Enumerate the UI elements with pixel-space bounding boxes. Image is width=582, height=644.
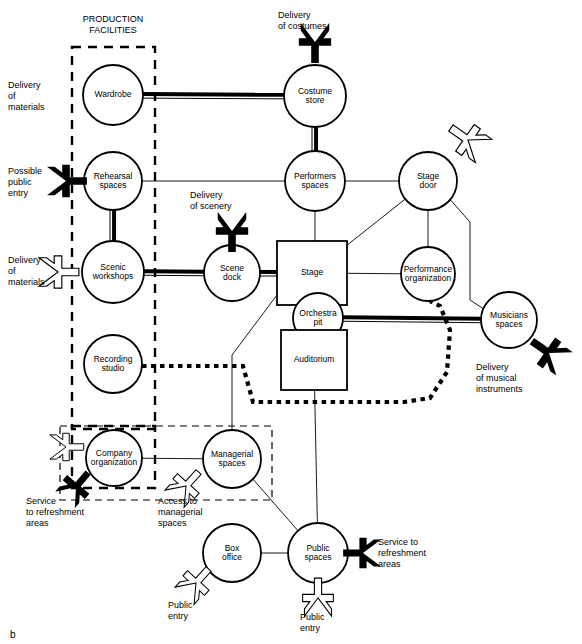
node-rehearsal[interactable]: Rehearsalspaces bbox=[84, 152, 142, 210]
label-service-to-refreshment-left: areas bbox=[26, 518, 49, 528]
label-delivery-of-scenery: of scenery bbox=[190, 201, 232, 211]
label-delivery-of-materials-bottom: Delivery bbox=[8, 255, 41, 265]
node-label-box_office: Box bbox=[225, 543, 240, 553]
label-service-to-refreshment-right: refreshment bbox=[378, 548, 427, 558]
label-delivery-of-materials-bottom: of bbox=[8, 266, 16, 276]
node-label-scenic: workshops bbox=[92, 271, 134, 281]
arrow-company-white bbox=[50, 433, 84, 460]
node-label-costume_store: store bbox=[306, 95, 325, 105]
arrow-possible-public-entry bbox=[47, 165, 87, 197]
label-access-to-managerial-spaces: spaces bbox=[158, 518, 187, 528]
link-managerial-to-public_spaces bbox=[252, 478, 300, 533]
label-public-entry-public-spaces: entry bbox=[300, 623, 321, 633]
node-label-rehearsal: spaces bbox=[100, 180, 127, 190]
node-public_spaces[interactable]: Publicspaces bbox=[288, 523, 348, 583]
label-delivery-of-materials-top: Delivery bbox=[8, 80, 41, 90]
label-possible-public-entry: public bbox=[8, 177, 32, 187]
node-label-scene_dock: dock bbox=[223, 272, 242, 282]
node-stage_door[interactable]: Stagedoor bbox=[399, 152, 457, 210]
node-label-company_org: Company bbox=[96, 448, 133, 458]
arrow-public-entry-public bbox=[303, 578, 334, 616]
arrow-delivery-of-scenery bbox=[216, 212, 248, 252]
link-auditorium-to-public_spaces bbox=[315, 390, 318, 523]
link-wardrobe-to-costume_store-thin-rail bbox=[143, 98, 284, 99]
link-stage_door-to-musicians bbox=[447, 196, 487, 311]
link-scenic-to-scene_dock-thick-rail bbox=[144, 271, 204, 272]
label-public-entry-public-spaces: Public bbox=[300, 612, 325, 622]
theatre-relationship-diagram: PRODUCTIONFACILITIES WardrobeCostumestor… bbox=[0, 0, 582, 644]
label-public-entry-box-office: Public bbox=[168, 600, 193, 610]
label-delivery-of-musical-instruments: Delivery bbox=[476, 362, 509, 372]
node-label-recording: Recording bbox=[94, 354, 133, 364]
diagram-canvas: PRODUCTIONFACILITIES WardrobeCostumestor… bbox=[0, 0, 582, 644]
node-box_office[interactable]: Boxoffice bbox=[203, 524, 261, 582]
label-delivery-of-scenery: Delivery bbox=[190, 190, 223, 200]
group-label-production-facilities: FACILITIES bbox=[89, 25, 137, 35]
node-label-auditorium: Auditorium bbox=[294, 354, 335, 364]
node-scene_dock[interactable]: Scenedock bbox=[204, 245, 260, 301]
node-label-scenic: Scenic bbox=[100, 262, 126, 272]
node-label-box_office: office bbox=[222, 552, 242, 562]
label-delivery-of-costumes: of costumes bbox=[278, 21, 327, 31]
node-performers[interactable]: Performersspaces bbox=[285, 151, 345, 211]
label-possible-public-entry: entry bbox=[8, 188, 29, 198]
node-label-stage_door: door bbox=[419, 180, 436, 190]
label-delivery-of-musical-instruments: instruments bbox=[476, 384, 523, 394]
label-access-to-managerial-spaces: Access to bbox=[158, 496, 197, 506]
link-scenic-to-scene_dock-thin-rail bbox=[144, 275, 204, 276]
node-wardrobe[interactable]: Wardrobe bbox=[83, 65, 143, 125]
label-service-to-refreshment-right: Service to bbox=[378, 537, 418, 547]
node-costume_store[interactable]: Costumestore bbox=[284, 65, 346, 127]
node-label-public_spaces: spaces bbox=[305, 552, 332, 562]
label-service-to-refreshment-left: Service bbox=[26, 496, 56, 506]
label-delivery-of-materials-top: materials bbox=[8, 102, 45, 112]
node-label-musicians: spaces bbox=[496, 319, 523, 329]
node-company_org[interactable]: Companyorganization bbox=[86, 430, 142, 486]
link-stage-to-managerial bbox=[232, 295, 277, 430]
node-auditorium[interactable]: Auditorium bbox=[281, 330, 347, 390]
label-service-to-refreshment-right: areas bbox=[378, 559, 401, 569]
arrow-stage-door-entry bbox=[442, 115, 493, 164]
node-label-managerial: Managerial bbox=[211, 449, 253, 459]
node-label-orchestra_pit: Orchestra bbox=[299, 308, 337, 318]
node-label-company_org: organization bbox=[91, 457, 138, 467]
label-delivery-of-materials-top: of bbox=[8, 91, 16, 101]
label-access-to-managerial-spaces: managerial bbox=[158, 507, 203, 517]
node-label-managerial: spaces bbox=[219, 458, 246, 468]
node-recording[interactable]: Recordingstudio bbox=[84, 335, 142, 393]
label-service-to-refreshment-left: to refreshment bbox=[26, 507, 85, 517]
link-orchestra_pit-to-musicians-thin-rail bbox=[343, 321, 481, 322]
node-label-stage: Stage bbox=[301, 267, 323, 277]
node-label-recording: studio bbox=[102, 363, 125, 373]
link-orchestra_pit-to-musicians-thick-rail bbox=[343, 317, 481, 318]
node-perf_org[interactable]: Performanceorganization bbox=[401, 247, 455, 301]
node-managerial[interactable]: Managerialspaces bbox=[203, 430, 261, 488]
node-musicians[interactable]: Musiciansspaces bbox=[481, 292, 537, 348]
arrow-service-refreshment-r bbox=[343, 538, 381, 569]
label-delivery-of-costumes: Delivery bbox=[278, 10, 311, 20]
link-company_org-to-managerial bbox=[142, 458, 203, 459]
label-public-entry-box-office: entry bbox=[168, 611, 189, 621]
node-label-stage_door: Stage bbox=[417, 171, 439, 181]
node-label-costume_store: Costume bbox=[298, 86, 332, 96]
node-label-musicians: Musicians bbox=[490, 310, 528, 320]
node-label-orchestra_pit: pit bbox=[314, 317, 324, 327]
node-label-perf_org: organization bbox=[405, 273, 452, 283]
label-possible-public-entry: Possible bbox=[8, 166, 42, 176]
node-label-performers: Performers bbox=[294, 171, 336, 181]
node-label-wardrobe: Wardrobe bbox=[94, 89, 131, 99]
group-label-production-facilities: PRODUCTION bbox=[83, 14, 144, 24]
node-label-performers: spaces bbox=[302, 180, 329, 190]
node-label-scene_dock: Scene bbox=[220, 263, 244, 273]
label-delivery-of-musical-instruments: of musical bbox=[476, 373, 517, 383]
node-label-public_spaces: Public bbox=[306, 543, 330, 553]
label-delivery-of-materials-bottom: materials bbox=[8, 277, 45, 287]
link-wardrobe-to-costume_store-thick-rail bbox=[143, 94, 284, 95]
link-stage_door-to-stage bbox=[347, 199, 405, 245]
node-label-rehearsal: Rehearsal bbox=[94, 171, 133, 181]
node-scenic[interactable]: Scenicworkshops bbox=[82, 241, 144, 303]
figure-caption: b bbox=[10, 629, 16, 640]
node-label-perf_org: Performance bbox=[404, 264, 453, 274]
